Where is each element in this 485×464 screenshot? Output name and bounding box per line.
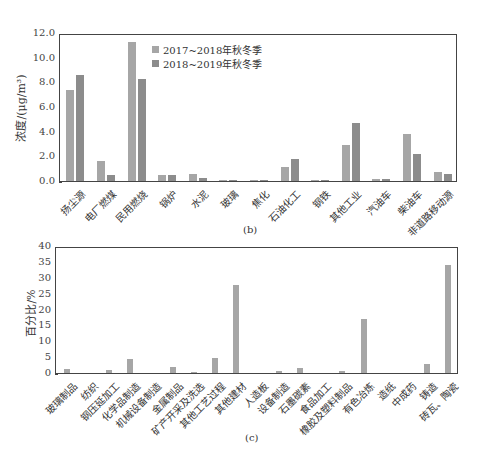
- bar: [361, 319, 367, 373]
- bar: [127, 359, 133, 373]
- y-tick-label: 40: [21, 240, 51, 251]
- bar: [276, 371, 282, 373]
- bar: [191, 372, 197, 373]
- bar: [297, 368, 303, 373]
- bar: [339, 371, 345, 373]
- chart-c-plot-area: [55, 247, 458, 374]
- bar: [64, 369, 70, 373]
- y-tick-label: 30: [21, 272, 51, 283]
- y-tick-label: 10: [21, 335, 51, 346]
- bar: [170, 367, 176, 373]
- y-tick-label: 20: [21, 304, 51, 315]
- y-tick-label: 0: [21, 367, 51, 378]
- y-tick-mark: [55, 374, 58, 375]
- bar: [212, 358, 218, 373]
- y-tick-label: 5: [21, 351, 51, 362]
- bar: [445, 265, 451, 373]
- chart-c-panel-label: (c): [245, 432, 258, 443]
- chart-c: 百分比/% 0510152025303540 玻璃制品纺织钢压延加工化学品制造机…: [0, 0, 485, 464]
- bar: [424, 364, 430, 373]
- x-tick-label: 玻璃制品: [41, 378, 80, 417]
- bar: [106, 370, 112, 373]
- y-tick-label: 25: [21, 288, 51, 299]
- y-tick-label: 35: [21, 256, 51, 267]
- bar: [233, 285, 239, 373]
- y-tick-label: 15: [21, 319, 51, 330]
